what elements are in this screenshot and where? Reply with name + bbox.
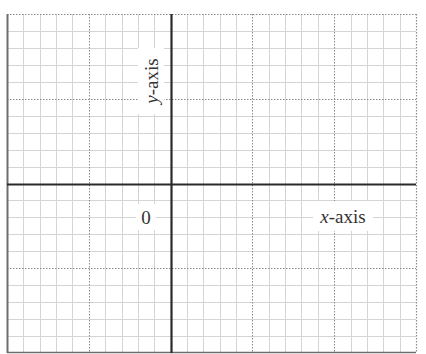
x-axis-suffix: -axis [329, 206, 366, 227]
y-axis-variable: y [141, 95, 162, 103]
x-axis-label-text: x-axis [320, 207, 365, 226]
y-axis-suffix: -axis [141, 58, 162, 95]
origin-label: 0 [136, 204, 156, 230]
x-axis-variable: x [320, 206, 328, 227]
x-axis-label: x-axis [313, 201, 373, 231]
y-axis-label-text: y-axis [142, 58, 161, 103]
y-axis-label: y-axis [138, 48, 164, 114]
coordinate-grid [0, 0, 426, 354]
